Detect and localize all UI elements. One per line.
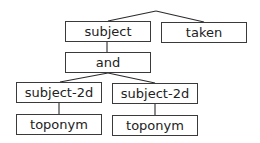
node-toponym-left: toponym [16, 114, 102, 135]
edge-and-subject2d-right [108, 73, 155, 83]
node-and: and [65, 52, 151, 73]
node-label: subject-2d [121, 87, 189, 100]
node-toponym-right: toponym [112, 115, 198, 136]
node-subject-2d-right: subject-2d [112, 83, 198, 104]
node-taken: taken [161, 22, 247, 43]
edge-root-subject [108, 11, 156, 21]
edge-root-taken [156, 11, 204, 22]
node-label: subject [84, 25, 131, 38]
node-label: toponym [126, 119, 184, 132]
node-label: toponym [30, 118, 88, 131]
node-subject: subject [65, 21, 151, 42]
edge-and-subject2d-left [60, 73, 108, 82]
node-label: taken [186, 26, 222, 39]
node-label: and [96, 56, 120, 69]
node-subject-2d-left: subject-2d [16, 82, 102, 103]
node-label: subject-2d [25, 86, 93, 99]
